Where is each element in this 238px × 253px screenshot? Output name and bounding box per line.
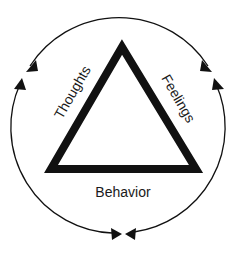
label-behavior: Behavior (95, 184, 151, 200)
arrowheads (14, 60, 224, 240)
arrowhead-icon (111, 228, 122, 240)
arrowhead-icon (14, 78, 26, 90)
arrowhead-icon (125, 228, 136, 240)
cognitive-triangle-diagram: Thoughts Feelings Behavior (0, 0, 238, 253)
arrowhead-icon (26, 60, 38, 72)
arrowhead-icon (200, 60, 212, 72)
triangle (51, 47, 196, 169)
arrowhead-icon (212, 78, 224, 90)
